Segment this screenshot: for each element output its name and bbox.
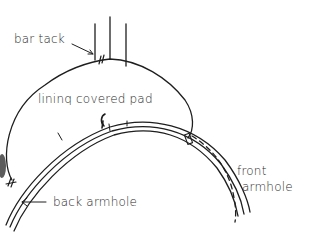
seam-ticks [58, 121, 127, 140]
bar-tack-left [6, 178, 16, 187]
front-armhole-label-line2: armhole [242, 180, 293, 194]
bar-tack-arrow [72, 44, 93, 54]
armhole-seam [6, 122, 250, 231]
edge-shadow [0, 154, 6, 178]
front-armhole-label-line1: front [237, 164, 267, 178]
back-armhole-label: back armhole [53, 195, 137, 209]
bar-tack-top [99, 55, 104, 64]
pad-tack-middle [101, 114, 105, 128]
back-armhole-arrow [22, 198, 46, 206]
bar-tack-label: bar tack [14, 32, 65, 46]
pad-outline [6, 59, 192, 180]
lining-pad-label: lininq covered pad [38, 92, 153, 106]
